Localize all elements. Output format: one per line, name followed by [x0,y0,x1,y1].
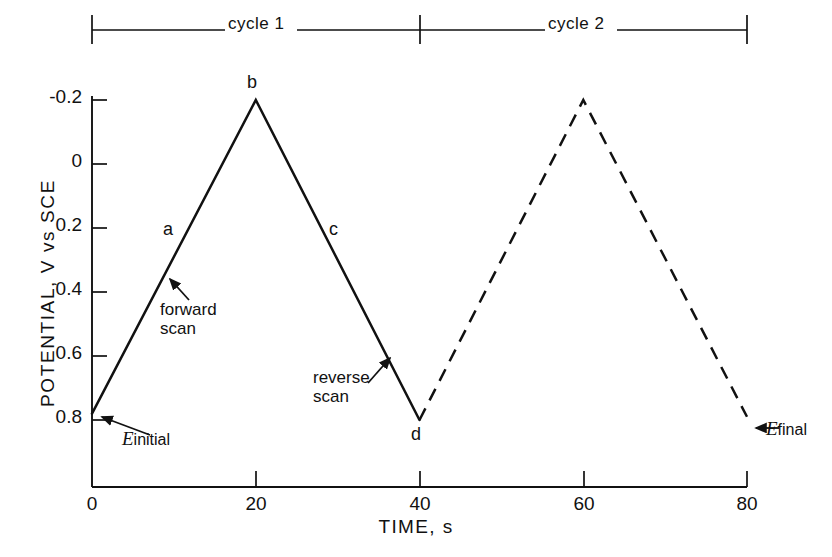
segment-label-c: c [329,219,338,240]
e-initial-symbol: E [122,428,134,449]
plot-canvas [0,0,832,557]
reverse-scan-leader-arrow [368,358,390,383]
reverse-scan-note: reverse scan [313,368,370,406]
e-initial-label: Einitial [122,428,170,450]
cycle-1-bracket-label: cycle 1 [228,14,284,34]
forward-scan-leader-arrow [170,279,189,300]
e-final-label: Efinal [766,418,807,440]
x-tick-label-40: 40 [390,493,450,515]
x-axis-title: TIME, s [0,516,832,538]
forward-scan-note-line-1: forward [160,300,217,319]
e-final-subscript: final [778,421,807,438]
x-tick-label-0: 0 [62,493,122,515]
x-tick-label-20: 20 [226,493,286,515]
waveform-cycle-2 [420,100,748,420]
x-axis-ticks [256,471,747,487]
waveform-cycle-1 [92,100,420,420]
forward-scan-note-line-2: scan [160,319,217,338]
e-final-symbol: E [766,418,778,439]
y-axis-ticks [92,100,107,420]
cyclic-voltammetry-waveform-figure: cycle 1 cycle 2 -0.2 0 0.2 0.4 0.6 0.8 0… [0,0,832,557]
reverse-scan-note-line-2: scan [313,387,370,406]
cycle-2-bracket-label: cycle 2 [548,14,604,34]
y-axis-title: POTENTIAL, V vs SCE [37,143,59,443]
segment-label-b: b [247,72,257,93]
segment-label-a: a [163,219,173,240]
cycle-bracket [92,15,747,44]
e-initial-subscript: initial [134,431,170,448]
reverse-scan-note-line-1: reverse [313,368,370,387]
y-tick-label--0.2: -0.2 [4,86,82,108]
x-tick-label-60: 60 [554,493,614,515]
segment-label-d: d [411,424,421,445]
forward-scan-note: forward scan [160,300,217,338]
x-tick-label-80: 80 [717,493,777,515]
